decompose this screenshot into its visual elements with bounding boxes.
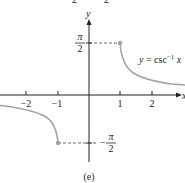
- svg-text:π: π: [108, 131, 114, 142]
- figure-caption: (e): [83, 171, 94, 183]
- x-tick-label-neg1: −1: [52, 98, 63, 109]
- x-axis-label: x: [181, 90, 185, 101]
- clipped-top-text-1: 2: [72, 0, 77, 5]
- chart-canvas: 2 2 x y −2 −1 1 2 π 2 − π 2 y = csc−1 x: [0, 0, 185, 183]
- svg-text:π: π: [77, 31, 83, 42]
- x-tick-label-neg2: −2: [21, 98, 32, 109]
- x-tick-label-1: 1: [118, 98, 123, 109]
- endpoint-bottom: [56, 141, 60, 145]
- y-axis-arrow-icon: [87, 19, 92, 25]
- curve-left-branch: [0, 106, 58, 144]
- svg-text:2: 2: [109, 143, 114, 154]
- function-label: y = csc−1 x: [138, 53, 182, 65]
- svg-text:−: −: [100, 137, 106, 148]
- endpoint-top: [118, 41, 122, 45]
- svg-text:2: 2: [78, 43, 83, 54]
- clipped-top-text-2: 2: [104, 0, 109, 5]
- y-axis-label: y: [85, 8, 91, 19]
- y-tick-label-pi-over-2: π 2: [75, 31, 85, 54]
- y-tick-label-neg-pi-over-2: − π 2: [100, 131, 116, 154]
- x-tick-label-2: 2: [150, 98, 155, 109]
